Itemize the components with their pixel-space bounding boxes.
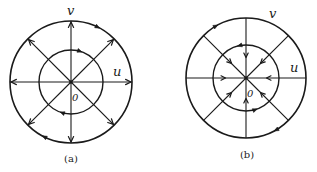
v-axis-label: v: [67, 3, 75, 18]
u-axis-label: u: [113, 64, 121, 79]
figure-caption: (b): [240, 149, 254, 160]
radial-line: [71, 39, 114, 82]
inner-circle-arrow-icon: [252, 109, 257, 113]
inner-circle-arrow-icon: [60, 112, 65, 116]
radial-line: [28, 39, 71, 82]
origin-label: 0: [72, 92, 79, 103]
figure-b-inward-flow: uv0(b): [186, 6, 306, 160]
origin-dot: [69, 80, 73, 84]
figure-caption: (a): [64, 153, 78, 164]
u-axis-label: u: [290, 60, 298, 75]
outer-circle-arrow-icon: [95, 24, 100, 28]
diagram-canvas: uv0(a) uv0(b): [0, 0, 317, 172]
inner-circle-arrow-icon: [77, 49, 82, 53]
figure-a-outward-flow: uv0(a): [10, 3, 132, 164]
inner-circle-arrow-icon: [237, 43, 242, 47]
outer-circle-arrow-icon: [42, 136, 47, 140]
radial-line: [246, 78, 288, 120]
radial-line: [28, 82, 71, 125]
origin-label: 0: [247, 88, 254, 99]
radial-line: [204, 78, 246, 120]
radial-line: [246, 36, 288, 78]
radial-line: [204, 36, 246, 78]
v-axis-label: v: [269, 6, 277, 21]
origin-dot: [244, 76, 248, 80]
radial-line: [71, 82, 114, 125]
